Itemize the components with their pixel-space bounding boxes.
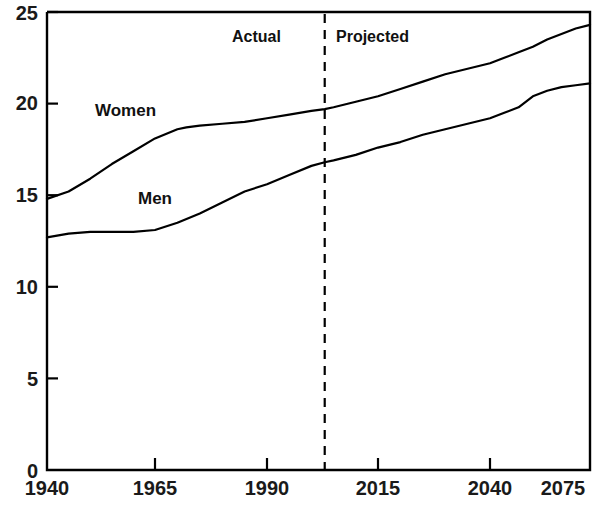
annotation-actual: Actual [232, 28, 281, 46]
y-tick-label-15: 15 [0, 184, 38, 207]
y-tick-label-20: 20 [0, 92, 38, 115]
x-tick-label-2015: 2015 [333, 477, 423, 500]
annotation-projected: Projected [336, 28, 409, 46]
x-tick-label-1965: 1965 [110, 477, 200, 500]
y-tick-label-5: 5 [0, 368, 38, 391]
series-label-men: Men [138, 189, 172, 209]
x-tick-label-1990: 1990 [222, 477, 312, 500]
series-label-women: Women [95, 101, 156, 121]
x-tick-label-1940: 1940 [2, 477, 92, 500]
x-tick-label-2075: 2075 [518, 477, 608, 500]
plot-frame [47, 12, 590, 470]
chart-container: 0 5 10 15 20 25 1940 1965 1990 2015 2040… [0, 0, 610, 510]
y-tick-label-10: 10 [0, 276, 38, 299]
y-tick-label-25: 25 [0, 2, 38, 25]
x-axis-ticks [155, 458, 490, 470]
chart-plot-area [0, 0, 610, 510]
